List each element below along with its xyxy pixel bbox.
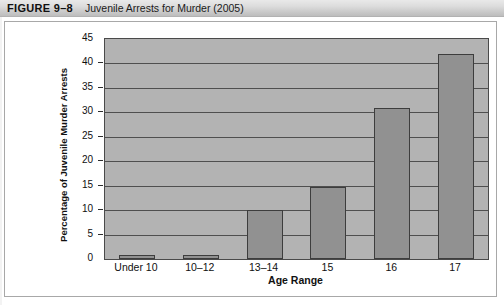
y-tick-label: 45 bbox=[67, 33, 93, 43]
gridline bbox=[105, 235, 488, 236]
y-tick-label: 15 bbox=[67, 180, 93, 190]
gridline bbox=[105, 88, 488, 89]
gridline bbox=[105, 186, 488, 187]
bar bbox=[438, 54, 474, 259]
bar bbox=[374, 108, 410, 259]
y-tick-mark bbox=[98, 209, 103, 210]
x-tick-label: 17 bbox=[415, 261, 495, 273]
gridline bbox=[105, 161, 488, 162]
y-tick-mark bbox=[98, 87, 103, 88]
bar bbox=[119, 255, 155, 259]
y-tick-label: 10 bbox=[67, 204, 93, 214]
y-tick-mark bbox=[98, 160, 103, 161]
x-axis-title: Age Range bbox=[104, 274, 487, 286]
y-tick-label: 0 bbox=[67, 253, 93, 263]
y-tick-mark bbox=[98, 185, 103, 186]
y-tick-label: 5 bbox=[67, 229, 93, 239]
y-tick-label: 20 bbox=[67, 155, 93, 165]
gridline bbox=[105, 137, 488, 138]
figure-number: FIGURE 9–8 bbox=[7, 2, 73, 14]
y-tick-mark bbox=[98, 62, 103, 63]
chart-frame: Percentage of Juvenile Murder Arrests 05… bbox=[4, 21, 497, 297]
y-tick-label: 35 bbox=[67, 82, 93, 92]
y-tick-mark bbox=[98, 234, 103, 235]
plot-area bbox=[104, 38, 489, 260]
y-tick-label: 30 bbox=[67, 106, 93, 116]
y-tick-mark bbox=[98, 136, 103, 137]
bar bbox=[310, 187, 346, 259]
gridline bbox=[105, 210, 488, 211]
y-tick-label: 40 bbox=[67, 57, 93, 67]
bar bbox=[183, 255, 219, 259]
bar bbox=[247, 210, 283, 259]
figure-header: FIGURE 9–8 Juvenile Arrests for Murder (… bbox=[0, 0, 504, 17]
gridline bbox=[105, 112, 488, 113]
gridline bbox=[105, 63, 488, 64]
scan-edge bbox=[0, 17, 2, 305]
figure-caption: Juvenile Arrests for Murder (2005) bbox=[85, 2, 244, 14]
y-tick-label: 25 bbox=[67, 131, 93, 141]
y-tick-mark bbox=[98, 111, 103, 112]
